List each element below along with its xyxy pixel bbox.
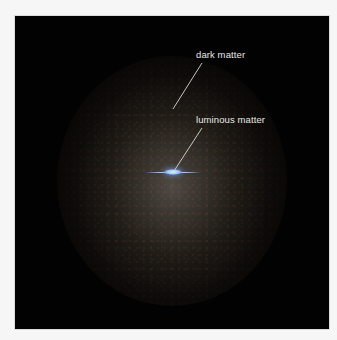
luminous-matter-label: luminous matter [196,114,265,125]
halo-speckle-texture [57,56,287,306]
dark-matter-label: dark matter [196,49,245,60]
galactic-bulge [164,169,182,175]
galaxy-diagram-panel: dark matter luminous matter [15,16,329,329]
